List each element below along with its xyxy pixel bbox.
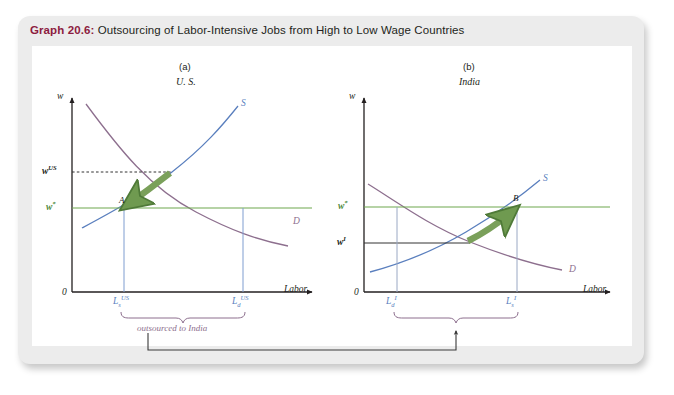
figure-caption: Graph 20.6: Outsourcing of Labor-Intensi… bbox=[30, 24, 634, 44]
panel-b-origin-label: 0 bbox=[354, 288, 359, 298]
panel-a-ls-sub: s bbox=[118, 301, 121, 308]
panel-a-x-axis-label: Labor bbox=[284, 285, 307, 295]
figure-title: Outsourcing of Labor-Intensive Jobs from… bbox=[98, 24, 465, 36]
panel-b-world-wage-sup: * bbox=[344, 199, 347, 206]
panel-b-y-axis-label: w bbox=[349, 92, 355, 102]
panel-a-world-wage-label: w* bbox=[46, 201, 56, 213]
panel-b-ld-sub: d bbox=[391, 301, 394, 308]
panel-a-ld-sup: US bbox=[241, 294, 249, 301]
panel-b-ls-sup: I bbox=[514, 294, 516, 301]
panel-a-ls-sup: US bbox=[121, 294, 129, 301]
panel-a-y-axis-label: w bbox=[57, 92, 63, 102]
panel-a-supply-label: S bbox=[241, 99, 246, 109]
panel-b-wage-india-sup: I bbox=[343, 235, 346, 242]
outsourced-note: outsourced to India bbox=[137, 324, 207, 333]
figure-number: Graph 20.6: bbox=[30, 24, 94, 36]
panel-b-wage-india-label: wI bbox=[337, 236, 346, 248]
panel-b-id: (b) bbox=[463, 62, 475, 72]
panel-b-supply-label: S bbox=[543, 174, 548, 184]
panel-b-point-label: B bbox=[513, 194, 519, 203]
panel-a-origin-label: 0 bbox=[62, 288, 67, 298]
panel-a-wage-us-label: wUS bbox=[42, 165, 57, 177]
panel-b-world-wage-label: w* bbox=[338, 200, 348, 212]
panel-a-ld-sub: d bbox=[237, 301, 240, 308]
panel-b-name: India bbox=[459, 77, 480, 87]
panel-b-ld-sup: I bbox=[395, 294, 397, 301]
panel-a-wage-us-sup: US bbox=[48, 164, 56, 171]
panel-a-labor-demanded-label: LdUS bbox=[232, 295, 249, 309]
panel-b-labor-demanded-label: LdI bbox=[386, 295, 397, 309]
figure-page: Graph 20.6: Outsourcing of Labor-Intensi… bbox=[0, 0, 674, 395]
panel-a-world-wage-sup: * bbox=[52, 200, 55, 207]
panel-b-ls-sub: s bbox=[511, 301, 514, 308]
panel-b-labor-supplied-label: LsI bbox=[506, 295, 516, 309]
panel-b-x-axis-label: Labor bbox=[583, 285, 606, 295]
panel-a-id: (a) bbox=[179, 62, 191, 72]
panel-a-name: U. S. bbox=[176, 77, 196, 87]
panel-a-labor-supplied-label: LsUS bbox=[113, 295, 129, 309]
panel-a-point-label: A bbox=[119, 196, 125, 205]
panel-a-demand-label: D bbox=[293, 217, 300, 227]
panel-b-demand-label: D bbox=[569, 265, 576, 275]
